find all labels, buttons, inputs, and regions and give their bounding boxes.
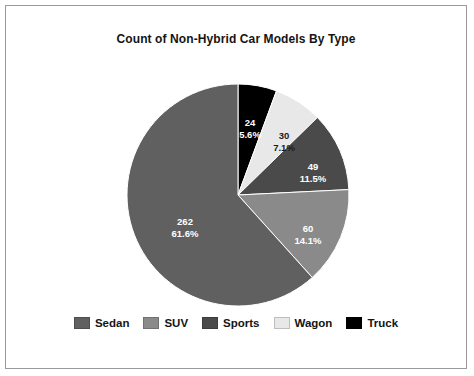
legend-label: Truck — [367, 317, 398, 329]
legend-label: Wagon — [295, 317, 333, 329]
slice-percent-truck: 5.6% — [239, 129, 261, 140]
legend-item-sedan[interactable]: Sedan — [74, 317, 130, 329]
slice-value-truck: 24 — [245, 117, 256, 128]
slice-percent-sports: 14.1% — [295, 235, 322, 246]
slice-percent-sedan: 61.6% — [172, 228, 199, 239]
legend-swatch-wagon — [274, 317, 290, 329]
chart-title: Count of Non-Hybrid Car Models By Type — [6, 32, 466, 46]
legend-item-sports[interactable]: Sports — [202, 317, 259, 329]
slice-value-sedan: 262 — [177, 216, 193, 227]
legend-item-suv[interactable]: SUV — [143, 317, 188, 329]
legend-item-truck[interactable]: Truck — [346, 317, 398, 329]
legend-swatch-suv — [143, 317, 159, 329]
legend-swatch-sports — [202, 317, 218, 329]
slice-value-suv: 49 — [308, 161, 319, 172]
legend-label: Sports — [223, 317, 259, 329]
slice-value-sports: 60 — [303, 223, 314, 234]
slice-percent-wagon: 7.1% — [273, 142, 295, 153]
legend-swatch-truck — [346, 317, 362, 329]
slice-percent-suv: 11.5% — [300, 173, 327, 184]
legend-item-wagon[interactable]: Wagon — [274, 317, 333, 329]
pie-slices — [127, 84, 349, 306]
legend: SedanSUVSportsWagonTruck — [6, 317, 466, 329]
legend-label: SUV — [164, 317, 188, 329]
legend-swatch-sedan — [74, 317, 90, 329]
chart-frame: Count of Non-Hybrid Car Models By Type 2… — [5, 5, 467, 369]
pie-svg: 245.6%307.1%4911.5%6014.1%26261.6% — [122, 84, 354, 306]
legend-label: Sedan — [95, 317, 130, 329]
pie-chart: 245.6%307.1%4911.5%6014.1%26261.6% — [122, 84, 354, 306]
slice-value-wagon: 30 — [279, 130, 290, 141]
